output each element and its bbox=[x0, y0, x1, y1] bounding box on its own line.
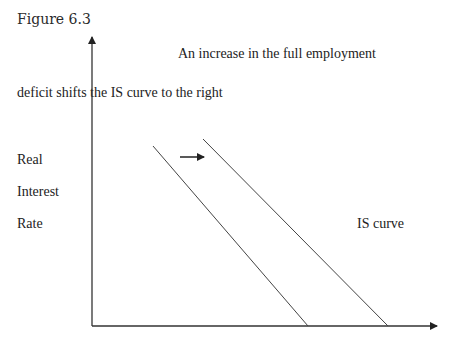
is-curve-initial bbox=[153, 146, 308, 326]
diagram-canvas bbox=[0, 0, 454, 340]
is-curve-shifted bbox=[203, 139, 388, 326]
